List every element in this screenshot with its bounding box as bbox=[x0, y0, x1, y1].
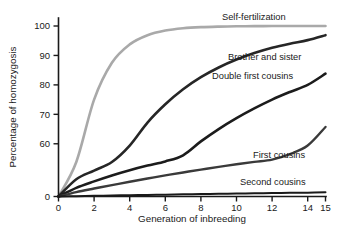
y-tick-label: 70 bbox=[39, 109, 50, 120]
chart-figure: 060708090100 0246810121415 Generation of… bbox=[0, 0, 338, 234]
x-tick-label: 15 bbox=[320, 202, 331, 213]
curve-label-double-first-cousins: Double first cousins bbox=[212, 71, 293, 81]
x-tick-label: 10 bbox=[231, 202, 242, 213]
y-tick-label: 90 bbox=[39, 50, 50, 61]
x-tick-label: 14 bbox=[302, 202, 313, 213]
x-tick-label: 6 bbox=[163, 202, 168, 213]
curve-label-first-cousins: First cousins bbox=[253, 150, 306, 160]
curve-label-self-fertilization: Self-fertilization bbox=[222, 12, 286, 22]
y-tick-label: 60 bbox=[39, 138, 50, 149]
curve-label-second-cousins: Second cousins bbox=[240, 177, 306, 187]
curve-label-brother-and-sister: Brother and sister bbox=[228, 52, 301, 62]
y-tick-label: 100 bbox=[34, 20, 50, 31]
x-axis-title: Generation of inbreeding bbox=[138, 213, 246, 224]
x-tick-label: 8 bbox=[198, 202, 203, 213]
homozygosis-line-chart: 060708090100 0246810121415 Generation of… bbox=[0, 0, 338, 234]
y-axis-title: Percentage of homozygosis bbox=[7, 46, 18, 167]
x-tick-label: 4 bbox=[127, 202, 132, 213]
y-tick-label: 80 bbox=[39, 79, 50, 90]
x-tick-label: 2 bbox=[91, 202, 96, 213]
chart-background bbox=[0, 0, 338, 234]
x-tick-label: 12 bbox=[267, 202, 278, 213]
y-tick-label: 0 bbox=[45, 191, 50, 202]
x-tick-label: 0 bbox=[56, 202, 61, 213]
